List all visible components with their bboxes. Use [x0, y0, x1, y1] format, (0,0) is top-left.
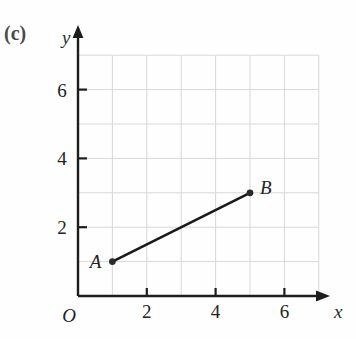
data-points: AB	[88, 177, 272, 272]
point-label-b: B	[260, 177, 272, 198]
x-tick-label: 4	[211, 301, 221, 322]
x-axis-label: x	[333, 301, 343, 322]
y-axis-arrowhead	[73, 25, 84, 38]
point-label-a: A	[88, 251, 102, 272]
x-tick-label: 2	[142, 301, 152, 322]
y-tick-label: 4	[57, 148, 67, 169]
origin-label: O	[62, 305, 76, 326]
x-tick-label: 6	[280, 301, 290, 322]
coordinate-plot: 246246 AB y x O	[0, 0, 356, 339]
y-axis-label: y	[60, 27, 71, 48]
y-tick-label: 6	[57, 80, 67, 101]
y-tick-label: 2	[57, 217, 67, 238]
tick-labels: 246246	[57, 80, 289, 322]
figure-container: (c) 246246 AB y x O	[0, 0, 356, 339]
x-axis-arrowhead	[316, 291, 330, 302]
point-a	[109, 258, 116, 265]
point-b	[247, 189, 254, 196]
